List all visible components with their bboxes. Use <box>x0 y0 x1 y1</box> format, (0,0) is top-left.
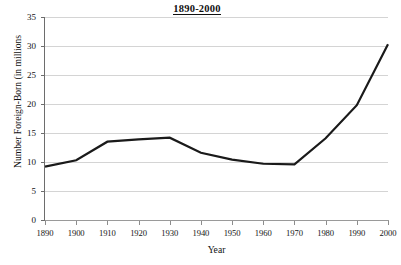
x-tick-mark-2000 <box>388 221 389 225</box>
x-axis-title: Year <box>45 244 388 255</box>
x-tick-label-1980: 1980 <box>306 228 346 238</box>
x-tick-label-1940: 1940 <box>181 228 221 238</box>
x-tick-mark-1920 <box>139 221 140 225</box>
x-tick-label-1920: 1920 <box>119 228 159 238</box>
x-tick-mark-1930 <box>170 221 171 225</box>
x-tick-mark-1990 <box>357 221 358 225</box>
data-series-line <box>45 17 388 220</box>
x-tick-mark-1950 <box>232 221 233 225</box>
y-axis-line <box>44 17 45 221</box>
x-tick-mark-1940 <box>201 221 202 225</box>
x-tick-label-1910: 1910 <box>87 228 127 238</box>
x-tick-mark-1900 <box>76 221 77 225</box>
x-tick-label-1990: 1990 <box>337 228 377 238</box>
x-tick-label-1900: 1900 <box>56 228 96 238</box>
x-tick-mark-1980 <box>326 221 327 225</box>
y-tick-label-0: 0 <box>12 216 36 225</box>
x-tick-label-2000: 2000 <box>368 228 401 238</box>
chart-title-text: 1890-2000 <box>173 3 220 15</box>
x-tick-mark-1960 <box>263 221 264 225</box>
x-tick-mark-1890 <box>45 221 46 225</box>
x-tick-mark-1910 <box>107 221 108 225</box>
y-axis-title: Number Foreign-Born (in millions <box>12 17 23 187</box>
x-tick-label-1930: 1930 <box>150 228 190 238</box>
chart-title: 1890-2000 <box>0 3 394 14</box>
x-axis-line <box>44 220 389 221</box>
x-tick-label-1970: 1970 <box>274 228 314 238</box>
x-tick-label-1960: 1960 <box>243 228 283 238</box>
foreign-born-line <box>45 44 388 166</box>
y-tick-label-5: 5 <box>12 187 36 196</box>
x-tick-mark-1970 <box>294 221 295 225</box>
x-tick-label-1890: 1890 <box>25 228 65 238</box>
x-tick-label-1950: 1950 <box>212 228 252 238</box>
